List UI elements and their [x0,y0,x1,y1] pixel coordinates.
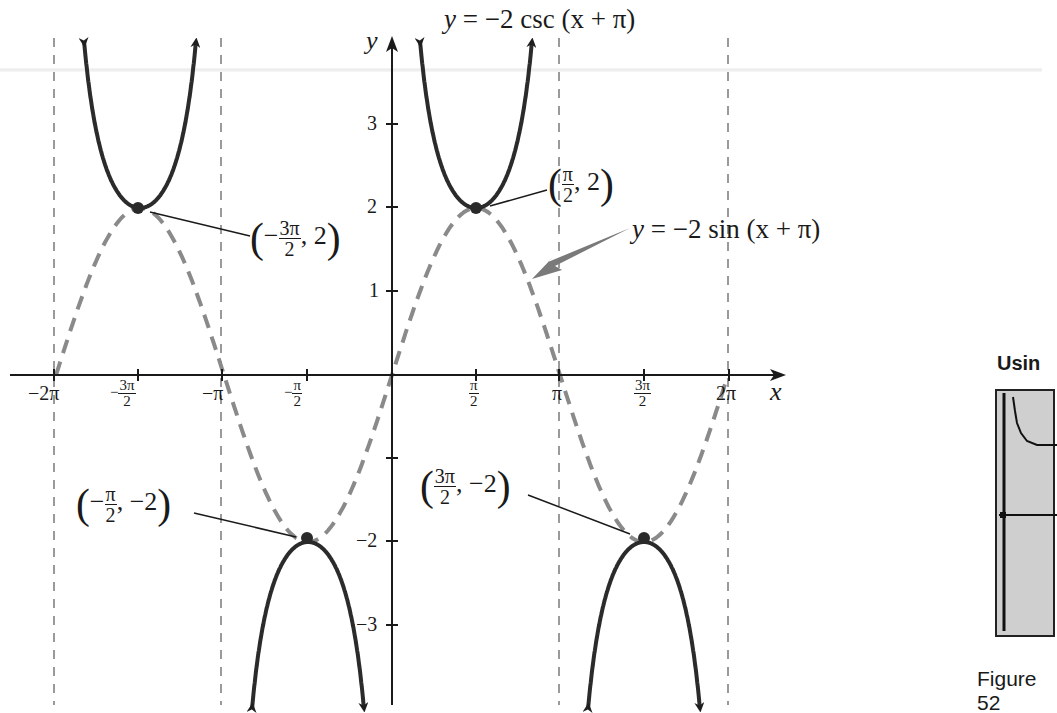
point-neg-3pi-2 [132,202,144,214]
csc-branch-1 [252,542,364,708]
x-tick-neg-2pi: −2π [28,382,59,405]
y-tick-neg-3: −3 [356,613,377,636]
y-axis [386,36,398,705]
calculator-screen-thumbnail [995,389,1055,637]
y-tick-1: 1 [369,279,379,302]
point-pi-2 [470,202,482,214]
sin-equation-label: y = −2 sin (x + π) [632,214,820,245]
csc-branch-2 [420,43,532,209]
y-tick-2: 2 [367,195,377,218]
csc-equation-label: y = −2 csc (x + π) [444,4,635,35]
point-3pi-2 [638,532,650,544]
x-tick-pi: π [552,382,562,405]
label-point-neg-pi-2: (−π2, −2) [76,480,171,528]
csc-branch-3 [588,542,700,708]
sine-annotation-arrow [532,228,630,279]
label-point-neg-3pi-2: (−3π2, 2) [250,214,341,262]
calculator-graph [997,391,1057,639]
x-tick-2pi: 2π [716,382,736,405]
x-tick-neg-pi-2: −π2 [284,378,302,409]
x-tick-neg-pi: −π [202,382,223,405]
figure-caption: Figure 52 [977,667,1042,713]
y-tick-3: 3 [367,112,377,135]
x-tick-3pi-2: 3π2 [634,378,651,409]
y-axis-label: y [366,26,378,56]
label-point-3pi-2: (3π2, −2) [420,462,511,510]
y-tick-neg-2: −2 [356,529,377,552]
x-axis-label: x [770,377,782,407]
x-tick-neg-3pi-2: −3π2 [110,378,136,409]
side-heading-partial: Usin [997,352,1040,375]
label-point-pi-2: (π2, 2) [548,160,614,208]
point-neg-pi-2 [301,532,313,544]
csc-branch-0 [84,43,196,209]
x-tick-pi-2: π2 [469,378,479,409]
